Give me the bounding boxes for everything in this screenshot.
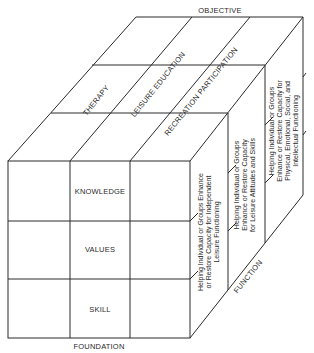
svg-text:Physical, Emotional, Social, a: Physical, Emotional, Social, and <box>284 81 292 181</box>
axis-label-function: FUNCTION <box>232 258 264 295</box>
axis-label-objective: OBJECTIVE <box>198 6 241 15</box>
svg-text:or Restore Capacity for Indepe: or Restore Capacity for Independent <box>205 176 213 289</box>
svg-text:Helping Individual or Groups: Helping Individual or Groups <box>268 86 276 175</box>
function-physical-emotional-social: Helping Individual or Groups Enhance or … <box>268 80 300 182</box>
function-independent-leisure: Helping Individual or Groups Enhance or … <box>197 173 221 291</box>
function-leisure-attitudes-skills: Helping Individual or Groups Enhance or … <box>233 138 256 232</box>
axis-label-foundation: FOUNDATION <box>73 342 124 351</box>
svg-text:Enhance or Restore Capacity fo: Enhance or Restore Capacity for <box>276 80 284 182</box>
cube-drawing: OBJECTIVE FOUNDATION FUNCTION THERAPY LE… <box>0 0 314 353</box>
foundation-knowledge: KNOWLEDGE <box>75 187 126 196</box>
svg-text:Enhance or Restore Capacity: Enhance or Restore Capacity <box>241 139 249 231</box>
svg-text:Intellectual Functioning: Intellectual Functioning <box>292 95 300 167</box>
foundation-skill: SKILL <box>89 305 110 314</box>
foundation-values: VALUES <box>85 245 115 254</box>
svg-text:for Leisure Attitudes and Skil: for Leisure Attitudes and Skills <box>249 138 256 232</box>
svg-text:Helping Individual or Groups: Helping Individual or Groups <box>233 140 241 229</box>
objective-therapy: THERAPY <box>81 83 111 117</box>
leisure-ability-cube-diagram: OBJECTIVE FOUNDATION FUNCTION THERAPY LE… <box>0 0 314 353</box>
svg-text:Leisure Functioning: Leisure Functioning <box>213 201 221 262</box>
svg-text:Helping Individual or Groups E: Helping Individual or Groups Enhance <box>197 173 205 291</box>
objective-leisure-education: LEISURE EDUCATION <box>129 50 187 119</box>
